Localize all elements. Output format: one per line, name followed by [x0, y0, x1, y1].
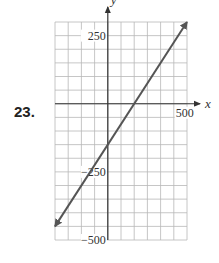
axes — [55, 7, 200, 240]
y-axis-label: y — [109, 0, 117, 7]
x-tick-label: 500 — [176, 106, 194, 120]
y-tick-label: −500 — [81, 233, 106, 247]
x-axis-label: x — [204, 96, 211, 111]
line-graph: xy500250−250−500 — [0, 0, 219, 263]
tick-labels: xy500250−250−500 — [81, 0, 211, 247]
y-tick-label: 250 — [88, 29, 106, 43]
grid-lines — [55, 22, 187, 240]
